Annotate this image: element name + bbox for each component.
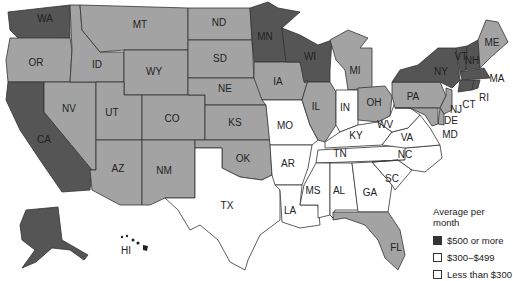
label-HI: HI bbox=[121, 245, 131, 256]
label-SC: SC bbox=[385, 173, 399, 184]
label-OR: OR bbox=[29, 57, 44, 68]
legend-item-mid: $300–$499 bbox=[433, 252, 513, 263]
label-OK: OK bbox=[236, 153, 251, 164]
label-CA: CA bbox=[37, 134, 51, 145]
legend-swatch-dark-icon bbox=[433, 236, 442, 245]
label-MA: MA bbox=[490, 73, 505, 84]
legend-label: Less than $300 bbox=[447, 269, 512, 280]
label-IL: IL bbox=[312, 101, 321, 112]
label-AZ: AZ bbox=[112, 163, 125, 174]
label-KY: KY bbox=[349, 130, 363, 141]
legend-label: $500 or more bbox=[447, 235, 504, 246]
label-TX: TX bbox=[221, 200, 234, 211]
label-PA: PA bbox=[407, 91, 420, 102]
label-NM: NM bbox=[156, 165, 172, 176]
label-AR: AR bbox=[281, 158, 295, 169]
state-NY[interactable] bbox=[392, 48, 460, 88]
label-WY: WY bbox=[146, 66, 162, 77]
label-CO: CO bbox=[165, 113, 180, 124]
label-AL: AL bbox=[333, 185, 346, 196]
label-FL: FL bbox=[390, 242, 402, 253]
state-AK[interactable] bbox=[20, 207, 88, 268]
legend-label: $300–$499 bbox=[447, 252, 495, 263]
label-CT: CT bbox=[462, 99, 475, 110]
label-WA: WA bbox=[37, 13, 53, 24]
label-MS: MS bbox=[306, 185, 321, 196]
label-LA: LA bbox=[284, 205, 297, 216]
label-ID: ID bbox=[92, 59, 102, 70]
label-SD: SD bbox=[213, 53, 227, 64]
label-OH: OH bbox=[367, 97, 382, 108]
legend-swatch-empty-icon bbox=[433, 270, 442, 279]
label-GA: GA bbox=[363, 187, 378, 198]
label-RI: RI bbox=[479, 92, 489, 103]
legend-item-low: Less than $300 bbox=[433, 269, 513, 280]
label-MO: MO bbox=[277, 120, 293, 131]
label-NH: NH bbox=[465, 55, 479, 66]
label-MD: MD bbox=[442, 129, 458, 140]
label-VA: VA bbox=[401, 132, 414, 143]
label-IN: IN bbox=[340, 102, 350, 113]
label-MN: MN bbox=[257, 31, 273, 42]
label-TN: TN bbox=[333, 148, 346, 159]
label-UT: UT bbox=[105, 107, 118, 118]
legend-title: Average per month bbox=[433, 206, 513, 228]
legend: Average per month $500 or more $300–$499… bbox=[433, 206, 513, 281]
label-NC: NC bbox=[398, 149, 412, 160]
label-NY: NY bbox=[434, 66, 448, 77]
label-IA: IA bbox=[273, 76, 283, 87]
label-WI: WI bbox=[304, 51, 316, 62]
label-NV: NV bbox=[62, 103, 76, 114]
label-MI: MI bbox=[349, 65, 360, 76]
label-MT: MT bbox=[133, 19, 147, 30]
state-MI[interactable] bbox=[330, 30, 372, 90]
label-NJ: NJ bbox=[450, 104, 462, 115]
label-KS: KS bbox=[228, 117, 242, 128]
label-ME: ME bbox=[485, 37, 500, 48]
label-DE: DE bbox=[444, 115, 458, 126]
legend-swatch-empty-icon bbox=[433, 253, 442, 262]
label-NE: NE bbox=[218, 83, 232, 94]
label-ND: ND bbox=[212, 17, 226, 28]
label-WV: WV bbox=[377, 119, 393, 130]
legend-item-high: $500 or more bbox=[433, 235, 513, 246]
state-FL[interactable] bbox=[333, 212, 405, 270]
